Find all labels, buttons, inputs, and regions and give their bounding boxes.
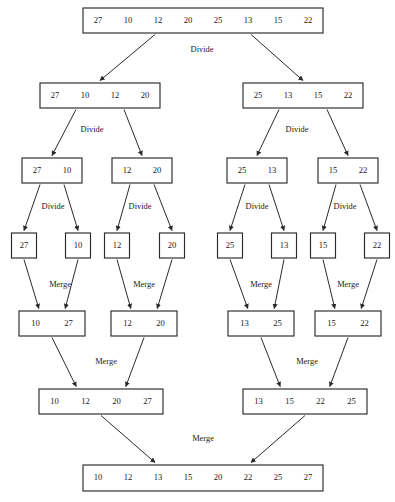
array-cell-value: 15 xyxy=(184,472,193,482)
array-cell-value: 22 xyxy=(373,240,382,250)
array-cell-value: 22 xyxy=(244,472,253,482)
array-cell-value: 12 xyxy=(111,90,120,100)
merge-arrow xyxy=(157,260,172,309)
array-node: 25131522 xyxy=(243,83,363,108)
array-cell-value: 27 xyxy=(20,240,29,250)
array-box xyxy=(111,311,177,336)
array-cell-value: 20 xyxy=(112,396,121,406)
array-cell-value: 12 xyxy=(81,396,90,406)
array-box xyxy=(22,158,82,183)
array-cell-value: 12 xyxy=(113,240,122,250)
array-cell-value: 15 xyxy=(319,240,328,250)
array-node: 27 xyxy=(12,233,37,258)
array-cell-value: 27 xyxy=(304,472,313,482)
divide-arrow xyxy=(360,185,377,231)
array-cell-value: 20 xyxy=(184,15,193,25)
merge-arrow xyxy=(126,338,144,387)
divide-arrow xyxy=(327,110,348,156)
merge-sort-svg: 2710122025131522271012202513152227101220… xyxy=(0,0,395,502)
merge-arrow xyxy=(323,260,335,309)
array-cell-value: 10 xyxy=(124,15,133,25)
array-cell-value: 15 xyxy=(285,396,294,406)
operation-label-divide: Divide xyxy=(334,202,357,211)
array-cell-value: 25 xyxy=(214,15,223,25)
divide-arrow xyxy=(257,110,279,156)
merge-arrow xyxy=(330,338,348,387)
divide-arrow xyxy=(269,185,284,231)
operation-label-divide: Divide xyxy=(42,202,65,211)
operation-label-merge: Merge xyxy=(250,280,272,289)
array-node: 2513 xyxy=(227,158,287,183)
operation-label-merge: Merge xyxy=(95,357,117,366)
array-cell-value: 22 xyxy=(344,90,353,100)
array-cell-value: 13 xyxy=(240,318,249,328)
operation-label-divide: Divide xyxy=(246,202,269,211)
array-cell-value: 27 xyxy=(143,396,152,406)
array-cell-value: 13 xyxy=(280,240,289,250)
array-box xyxy=(227,158,287,183)
array-node: 2710 xyxy=(22,158,82,183)
divide-arrow xyxy=(52,110,76,156)
array-cell-value: 27 xyxy=(51,90,60,100)
array-node: 25 xyxy=(218,233,243,258)
array-cell-value: 10 xyxy=(74,240,83,250)
array-cell-value: 15 xyxy=(329,165,338,175)
operation-label-merge: Merge xyxy=(49,280,71,289)
array-node: 1220 xyxy=(112,158,172,183)
array-cell-value: 25 xyxy=(274,472,283,482)
array-cell-value: 10 xyxy=(94,472,103,482)
operation-label-merge: Merge xyxy=(133,280,155,289)
array-node: 1012131520222527 xyxy=(83,465,323,491)
divide-arrow xyxy=(64,185,78,231)
array-node: 1522 xyxy=(318,158,378,183)
array-cell-value: 25 xyxy=(238,165,247,175)
array-cell-value: 25 xyxy=(254,90,263,100)
array-cell-value: 10 xyxy=(63,165,72,175)
array-node: 13152225 xyxy=(243,389,367,414)
operation-label-divide: Divide xyxy=(191,45,214,54)
array-cell-value: 27 xyxy=(33,165,42,175)
array-box xyxy=(315,311,381,336)
array-cell-value: 13 xyxy=(244,15,253,25)
array-cell-value: 20 xyxy=(214,472,223,482)
merge-arrow xyxy=(24,260,39,309)
array-cell-value: 12 xyxy=(154,15,163,25)
merge-sort-diagram-page: 2710122025131522271012202513152227101220… xyxy=(0,0,395,502)
array-box xyxy=(318,158,378,183)
divide-arrow xyxy=(251,35,303,81)
array-cell-value: 13 xyxy=(154,472,163,482)
array-cell-value: 27 xyxy=(94,15,103,25)
array-box xyxy=(112,158,172,183)
array-node: 15 xyxy=(311,233,336,258)
operation-label-merge: Merge xyxy=(337,280,359,289)
operation-label-divide: Divide xyxy=(81,125,104,134)
array-cell-value: 15 xyxy=(274,15,283,25)
merge-arrow xyxy=(101,416,155,463)
array-cell-value: 27 xyxy=(64,318,73,328)
array-cell-value: 15 xyxy=(327,318,336,328)
array-box xyxy=(83,465,323,491)
array-cell-value: 20 xyxy=(153,165,162,175)
array-node: 20 xyxy=(160,233,185,258)
array-cell-value: 10 xyxy=(31,318,40,328)
divide-arrow xyxy=(154,185,172,231)
array-node: 1027 xyxy=(19,311,85,336)
array-cell-value: 13 xyxy=(284,90,293,100)
array-cell-value: 15 xyxy=(314,90,323,100)
array-node: 1522 xyxy=(315,311,381,336)
array-cell-value: 22 xyxy=(316,396,325,406)
array-cell-value: 12 xyxy=(123,318,132,328)
array-cell-value: 10 xyxy=(50,396,59,406)
array-node: 10 xyxy=(66,233,91,258)
array-node: 27101220 xyxy=(40,83,160,108)
array-node: 13 xyxy=(272,233,297,258)
array-cell-value: 12 xyxy=(123,165,132,175)
array-cell-value: 10 xyxy=(81,90,90,100)
operation-label-merge: Merge xyxy=(192,434,214,443)
array-cell-value: 13 xyxy=(268,165,277,175)
operation-label-merge: Merge xyxy=(296,357,318,366)
array-cell-value: 12 xyxy=(124,472,133,482)
array-node: 2710122025131522 xyxy=(83,8,323,33)
divide-arrow xyxy=(24,185,40,231)
divide-arrow xyxy=(124,110,142,156)
